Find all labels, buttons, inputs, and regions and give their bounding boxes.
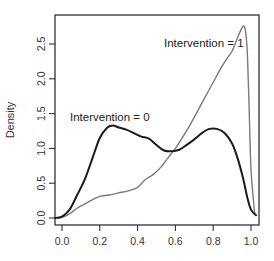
x-tick-label: 0.8	[206, 235, 221, 247]
x-tick-label: 0.0	[55, 235, 70, 247]
annotation-intervention-1: Intervention = 1	[164, 37, 244, 49]
y-tick-label: 1.0	[35, 141, 47, 156]
x-tick-label: 0.6	[168, 235, 183, 247]
x-tick-label: 0.2	[92, 235, 107, 247]
annotation-intervention-0: Intervention = 0	[70, 111, 150, 123]
y-axis-label: Density	[4, 101, 16, 138]
density-chart: 0.00.20.40.60.81.0 0.00.51.01.52.02.5 De…	[0, 0, 274, 261]
x-tick-label: 0.4	[130, 235, 145, 247]
y-tick-label: 1.5	[35, 106, 47, 121]
y-tick-label: 2.5	[35, 37, 47, 52]
y-tick-label: 2.0	[35, 71, 47, 86]
x-tick-label: 1.0	[244, 235, 259, 247]
y-tick-label: 0.0	[35, 211, 47, 226]
y-tick-label: 0.5	[35, 176, 47, 191]
